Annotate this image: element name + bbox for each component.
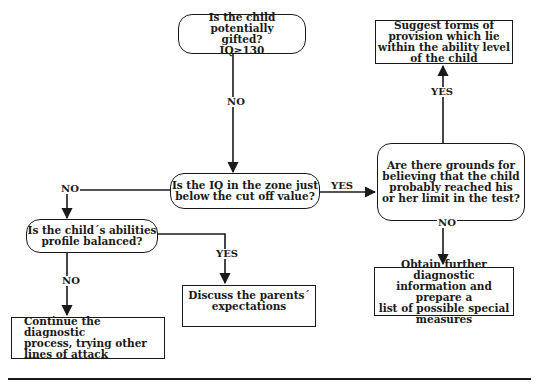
node-abilities-balanced: Is the child´s abilities profile balance… — [26, 219, 158, 253]
node-text: Obtain further diagnostic information an… — [375, 259, 513, 325]
node-continue-diagnostic: Continue the diagnostic process, trying … — [11, 317, 165, 359]
node-potentially-gifted: Is the child potentially gifted? IQ≥130 — [178, 14, 306, 54]
edge-label-yes-balanced: YES — [215, 249, 239, 259]
edge-label-no-grounds: NO — [437, 218, 457, 228]
edge-label-yes-zone: YES — [330, 181, 354, 191]
node-iq-zone: Is the IQ in the zone just below the cut… — [170, 173, 320, 209]
node-grounds-limit: Are there grounds for believing that the… — [377, 143, 525, 221]
node-text: Is the child´s abilities profile balance… — [27, 225, 156, 247]
edge-label-no-balanced: NO — [61, 276, 81, 286]
node-text: Suggest forms of provision which lie wit… — [378, 20, 510, 64]
node-suggest-provision: Suggest forms of provision which lie wit… — [375, 20, 513, 64]
node-text: Is the child potentially gifted? IQ≥130 — [179, 12, 305, 56]
node-text: Discuss the parents´ expectations — [188, 290, 309, 312]
node-obtain-diagnostic: Obtain further diagnostic information an… — [374, 267, 514, 316]
node-text: Continue the diagnostic process, trying … — [24, 316, 164, 360]
edge-label-yes-grounds: YES — [430, 87, 454, 97]
node-text: Are there grounds for believing that the… — [382, 160, 520, 204]
node-discuss-expectations: Discuss the parents´ expectations — [182, 285, 316, 327]
edge-label-no-gifted: NO — [226, 97, 246, 107]
node-text: Is the IQ in the zone just below the cut… — [172, 180, 318, 202]
edge-label-no-zone: NO — [60, 184, 80, 194]
